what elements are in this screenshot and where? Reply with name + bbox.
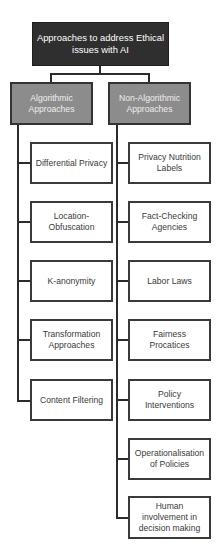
leaf-fairness-practices: Fairness Procatices bbox=[128, 319, 211, 361]
leaf-differential-privacy: Differential Privacy bbox=[30, 142, 113, 184]
branch-connector bbox=[17, 339, 30, 341]
leaf-label: Operationalisation of Policies bbox=[133, 448, 206, 470]
root-connector-horizontal bbox=[50, 73, 150, 75]
leaf-label: Fact-Checking Agencies bbox=[133, 211, 206, 233]
leaf-label: Transformation Approaches bbox=[35, 329, 108, 351]
leaf-label: Labor Laws bbox=[147, 276, 191, 287]
branch-connector bbox=[116, 517, 128, 519]
branch-connector bbox=[116, 339, 128, 341]
category-non-algorithmic: Non-Algorithmic Approaches bbox=[108, 82, 191, 125]
leaf-label: Differential Privacy bbox=[36, 158, 107, 169]
branch-connector bbox=[17, 280, 30, 282]
leaf-privacy-nutrition-labels: Privacy Nutrition Labels bbox=[128, 142, 211, 184]
leaf-label: Privacy Nutrition Labels bbox=[133, 152, 206, 174]
leaf-k-anonymity: K-anonymity bbox=[30, 260, 113, 302]
root-node: Approaches to address Ethical issues wit… bbox=[32, 22, 169, 66]
leaf-label: Fairness Procatices bbox=[133, 329, 206, 351]
right-category-connector bbox=[148, 73, 150, 82]
leaf-human-involvement: Human involvement in decision making bbox=[128, 496, 211, 539]
leaf-content-filtering: Content Filtering bbox=[30, 379, 113, 421]
root-label: Approaches to address Ethical issues wit… bbox=[36, 32, 165, 56]
leaf-fact-checking-agencies: Fact-Checking Agencies bbox=[128, 201, 211, 243]
left-spine bbox=[17, 125, 19, 402]
leaf-transformation-approaches: Transformation Approaches bbox=[30, 319, 113, 361]
left-category-connector bbox=[50, 73, 52, 82]
branch-connector bbox=[17, 221, 30, 223]
category-label: Non-Algorithmic Approaches bbox=[113, 93, 186, 115]
branch-connector bbox=[116, 221, 128, 223]
leaf-operationalisation-of-policies: Operationalisation of Policies bbox=[128, 438, 211, 480]
branch-connector bbox=[17, 162, 30, 164]
leaf-location-obfuscation: Location-Obfuscation bbox=[30, 201, 113, 243]
category-algorithmic: Algorithmic Approaches bbox=[10, 82, 93, 125]
category-label: Algorithmic Approaches bbox=[15, 93, 88, 115]
branch-connector bbox=[116, 399, 128, 401]
leaf-labor-laws: Labor Laws bbox=[128, 260, 211, 302]
leaf-policy-interventions: Policy Interventions bbox=[128, 379, 211, 421]
leaf-label: Human involvement in decision making bbox=[133, 501, 206, 534]
leaf-label: Policy Interventions bbox=[133, 389, 206, 411]
leaf-label: Location-Obfuscation bbox=[35, 211, 108, 233]
leaf-label: Content Filtering bbox=[40, 395, 103, 406]
leaf-label: K-anonymity bbox=[48, 276, 96, 287]
branch-connector bbox=[116, 458, 128, 460]
branch-connector bbox=[116, 280, 128, 282]
branch-connector bbox=[17, 400, 30, 402]
branch-connector bbox=[116, 162, 128, 164]
